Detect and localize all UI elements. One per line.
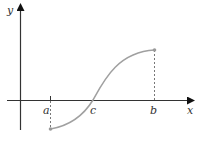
function-graph: y x a c b [0,0,198,154]
x-axis-label: x [187,104,194,117]
endpoint-b [153,48,157,52]
point-c-label: c [90,104,96,117]
function-curve [51,50,155,129]
point-b-label: b [150,104,157,117]
endpoint-a [49,127,53,131]
y-axis-label: y [6,4,14,17]
point-a-label: a [43,104,50,117]
